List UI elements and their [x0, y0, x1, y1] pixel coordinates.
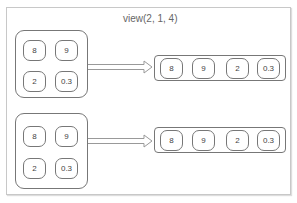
diagram-title: view(2, 1, 4)	[123, 13, 177, 24]
source-grid-2: 8 9 2 0.3	[15, 113, 88, 189]
target-row-2: 8 9 2 0.3	[154, 127, 286, 153]
grid-cell: 2	[23, 158, 46, 179]
grid-cell: 0.3	[55, 158, 78, 179]
row-cell: 0.3	[257, 130, 280, 151]
row-cell: 8	[160, 58, 183, 79]
row-cell: 2	[226, 130, 249, 151]
source-grid-1: 8 9 2 0.3	[15, 30, 88, 98]
arrow-icon	[88, 60, 154, 74]
arrow-icon	[88, 134, 154, 148]
grid-cell: 8	[23, 126, 46, 147]
grid-cell: 2	[23, 71, 46, 92]
grid-cell: 0.3	[55, 71, 78, 92]
grid-cell: 9	[55, 126, 78, 147]
row-cell: 2	[226, 58, 249, 79]
row-cell: 8	[160, 130, 183, 151]
grid-cell: 9	[55, 40, 78, 61]
row-cell: 9	[192, 58, 215, 79]
row-cell: 0.3	[257, 58, 280, 79]
row-cell: 9	[192, 130, 215, 151]
target-row-1: 8 9 2 0.3	[154, 55, 286, 81]
grid-cell: 8	[23, 40, 46, 61]
